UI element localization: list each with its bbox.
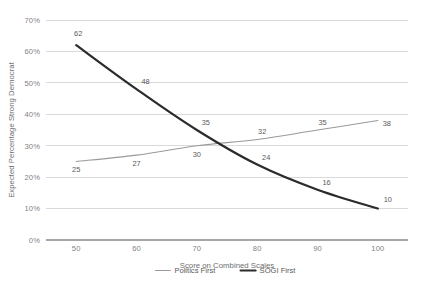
series-line-politics-first bbox=[76, 121, 378, 162]
data-point-label: 16 bbox=[322, 178, 330, 187]
y-axis-tick-label: 40% bbox=[25, 110, 41, 119]
series-line-sogi-first bbox=[76, 45, 378, 208]
y-axis-tick-labels: 0%10%20%30%40%50%60%70% bbox=[25, 16, 41, 245]
y-axis-tick-label: 30% bbox=[25, 142, 41, 151]
x-axis-tick-labels: 5060708090100 bbox=[72, 244, 384, 253]
y-axis-tick-label: 10% bbox=[25, 204, 41, 213]
x-axis-tick-label: 90 bbox=[313, 244, 322, 253]
x-axis-tick-label: 80 bbox=[253, 244, 262, 253]
data-point-label: 25 bbox=[72, 165, 80, 174]
y-axis-tick-label: 0% bbox=[29, 236, 40, 245]
x-axis-tick-label: 70 bbox=[193, 244, 202, 253]
y-axis-tick-label: 70% bbox=[25, 16, 41, 25]
y-axis-tick-label: 50% bbox=[25, 79, 41, 88]
y-axis-tick-label: 60% bbox=[25, 47, 41, 56]
data-point-label: 48 bbox=[141, 77, 149, 86]
chart-canvas: 0%10%20%30%40%50%60%70% 5060708090100 25… bbox=[0, 0, 424, 293]
data-point-label: 38 bbox=[383, 119, 391, 128]
data-point-label: 24 bbox=[262, 153, 270, 162]
y-axis-title: Expected Percentage Strong Democrat bbox=[7, 61, 16, 197]
gridlines bbox=[46, 20, 408, 240]
data-point-label: 32 bbox=[258, 127, 266, 136]
data-point-label: 30 bbox=[193, 150, 201, 159]
x-axis-tick-label: 50 bbox=[72, 244, 81, 253]
line-chart: 0%10%20%30%40%50%60%70% 5060708090100 25… bbox=[0, 0, 424, 293]
data-point-label: 27 bbox=[132, 159, 140, 168]
legend-label: SOGI First bbox=[260, 266, 297, 275]
y-axis-tick-label: 20% bbox=[25, 173, 41, 182]
data-point-label: 35 bbox=[318, 118, 326, 127]
data-point-label: 62 bbox=[74, 29, 82, 38]
x-axis-tick-label: 100 bbox=[371, 244, 384, 253]
data-series bbox=[76, 45, 378, 208]
data-point-label: 10 bbox=[384, 195, 392, 204]
data-point-label: 35 bbox=[202, 118, 210, 127]
x-axis-tick-label: 60 bbox=[132, 244, 141, 253]
legend-label: Politics First bbox=[174, 266, 216, 275]
